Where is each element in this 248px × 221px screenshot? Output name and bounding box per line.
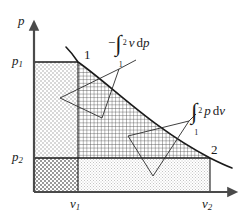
integrand-var-2: p	[204, 103, 211, 118]
x-tick-v2-subscript: 2	[208, 202, 212, 212]
pv-work-diagram: p p1 p2 v1 v2 1 2 −∫21vdp ∫21pdv	[0, 0, 248, 221]
annotation-minus-integral-v-dp: −∫21vdp	[108, 32, 149, 55]
integral-sign: ∫	[191, 100, 197, 123]
point-label-1: 1	[84, 48, 91, 61]
integral-lower-limit: 1	[194, 129, 198, 137]
region-upper-left-dotted	[34, 62, 78, 158]
x-tick-v1: v1	[70, 197, 80, 212]
integral-lower-limit: 1	[119, 61, 123, 69]
x-tick-v1-subscript: 1	[76, 202, 80, 212]
integral-sign: ∫	[115, 32, 121, 55]
integral-upper-limit: 2	[123, 39, 127, 47]
x-tick-v2: v2	[202, 197, 212, 212]
point-label-2: 2	[211, 143, 218, 156]
differential-var-1: p	[143, 35, 150, 50]
y-tick-p2: p2	[12, 150, 23, 165]
p-axis-label: p	[18, 14, 25, 27]
integrand-var-1: v	[129, 35, 135, 50]
y-tick-p1: p1	[12, 54, 23, 69]
differential-var-2: v	[219, 103, 225, 118]
y-tick-p1-subscript: 1	[19, 59, 23, 69]
integral-group-2: ∫21	[191, 100, 197, 123]
annotation-integral-p-dv: ∫21pdv	[191, 100, 225, 123]
integral-group-1: ∫21	[115, 32, 121, 55]
region-lower-left-dark-checker	[34, 158, 78, 192]
y-tick-p2-subscript: 2	[19, 155, 23, 165]
integral-upper-limit: 2	[198, 107, 202, 115]
region-lower-right-dotted	[78, 158, 210, 192]
